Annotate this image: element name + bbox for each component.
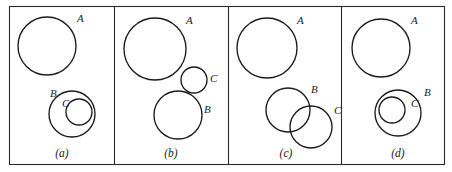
circle-a (124, 18, 186, 80)
panel-c: ABC(c) (237, 14, 342, 160)
set-label-a: A (410, 14, 418, 26)
figure-canvas: ABC(a)ACB(b)ABC(c)ABC(d) (0, 0, 452, 172)
set-label-c: C (210, 72, 218, 84)
set-label-a: A (185, 14, 193, 26)
panel-caption: (a) (55, 147, 69, 160)
set-label-b: B (50, 87, 57, 99)
panel-b: ACB(b) (124, 14, 218, 160)
set-label-b: B (204, 103, 211, 115)
set-label-c: C (334, 104, 342, 116)
venn-figure: ABC(a)ACB(b)ABC(c)ABC(d) (0, 0, 452, 172)
set-label-a: A (296, 14, 304, 26)
panel-caption: (c) (280, 147, 293, 160)
set-label-a: A (76, 12, 84, 24)
circle-c (181, 67, 207, 93)
circle-a (18, 17, 76, 75)
figure-frame (10, 7, 445, 165)
circle-b (154, 91, 202, 139)
circle-c (379, 97, 405, 123)
panel-a: ABC(a) (18, 12, 95, 160)
circle-a (352, 19, 410, 77)
circle-a (237, 18, 297, 78)
set-label-b: B (311, 83, 318, 95)
set-label-c: C (62, 97, 70, 109)
circle-c (290, 106, 332, 148)
set-label-c: C (411, 97, 419, 109)
panel-d: ABC(d) (352, 14, 431, 160)
circle-b (266, 88, 310, 132)
set-label-b: B (424, 86, 431, 98)
panel-caption: (b) (164, 147, 178, 160)
circle-c (66, 99, 92, 125)
panel-caption: (d) (391, 147, 405, 160)
